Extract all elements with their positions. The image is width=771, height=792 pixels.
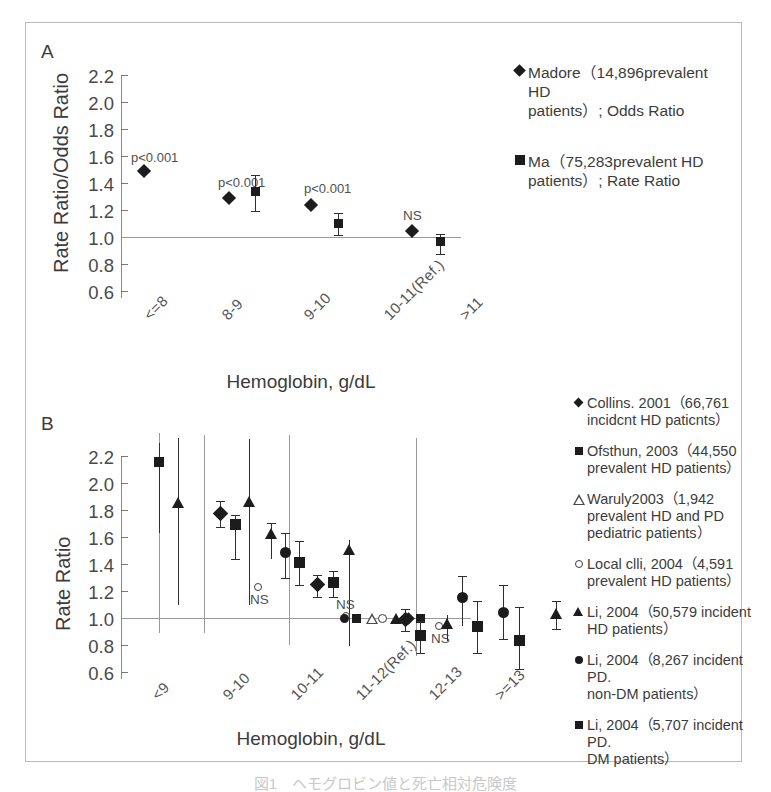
panel-b-legend-label: Li, 2004（5,707 incident PD. DM patients） [587,717,761,768]
panel-a-ytick-2-0: 2.0 [62,93,114,115]
panel-b-errorbar-cap [329,571,338,572]
panel-b-ytick-1-8: 1.8 [62,501,114,523]
panel-b-xtick-11-12-ref: 11-12(Ref.) [352,636,419,703]
panel-b-legend-item-li-hd: Li, 2004（50,579 incident HD patients） [571,604,761,638]
panel-b-errorbar-cap [473,601,482,602]
legend-marker-triangle-icon [571,604,587,620]
panel-b-marker-triangle [343,544,355,555]
panel-b-ytick-2-0: 2.0 [62,474,114,496]
panel-a-xtick-8-9: 8-9 [218,295,246,323]
panel-b-errorbar-cap [216,501,225,502]
panel-a-xtick-gt11: >11 [456,293,486,323]
panel-b-legend-label: Li, 2004（50,579 incident HD patients） [587,604,751,638]
panel-a-legend-item-madore: Madore（14,896prevalent HD patients）; Odd… [512,63,732,120]
panel-b-tick-mark [121,510,128,511]
panel-a-ytick-1-4: 1.4 [62,174,114,196]
panel-b-xtick-9-10: 9-10 [219,669,253,703]
panel-b-errorbar-cap [458,576,467,577]
panel-a-tick-mark [121,264,128,265]
panel-b-legend-item-li-pd-nondm: Li, 2004（8,267 incident PD. non-DM patie… [571,652,761,703]
panel-b-marker-diamond [310,577,326,593]
panel-b-marker-square [294,557,305,568]
panel-a-marker-square [251,187,260,196]
panel-a-marker-diamond [222,191,236,205]
panel-b-legend: Collins. 2001（66,761 incidcnt HD paticnt… [571,395,761,768]
panel-a-letter: A [41,41,54,63]
panel-b-marker-circle [457,592,468,603]
panel-b-errorbar-cap [231,559,240,560]
panel-b-xtick-12-13: 12-13 [425,663,465,703]
panel-b-errorbar-cap [416,621,425,622]
panel-b-errorbar [178,438,179,605]
panel-b-errorbar-cap [216,527,225,528]
panel-b-errorbar [349,540,350,646]
panel-b-tick-mark [121,591,128,592]
panel-b-errorbar-cap [281,533,290,534]
panel-b-errorbar-cap [267,523,276,524]
panel-a-xtick-9-10: 9-10 [300,289,334,323]
panel-b-ref-marker-triangle-open [366,613,378,624]
panel-b-marker-triangle [265,528,277,539]
panel-a-marker-square [334,219,343,228]
panel-b-annotation-ns: NS [250,592,269,607]
panel-b-group-separator [289,435,290,645]
panel-a-legend-label: Ma（75,283prevalent HD patients）; Rate Ra… [528,152,703,190]
panel-b-tick-mark [121,564,128,565]
panel-b-marker-square [154,457,164,467]
panel-a-tick-mark [121,102,128,103]
panel-b-marker-square [514,635,525,646]
panel-a-errorbar-cap [251,211,260,212]
panel-b-annotation-ns: NS [336,597,355,612]
panel-a-reference-line [121,237,461,238]
legend-marker-diamond-icon [512,63,528,79]
legend-marker-circle-icon [571,652,587,668]
legend-marker-square-icon [571,443,587,459]
panel-a-tick-mark [121,129,128,130]
figure-caption: 図1 ヘモグロビン値と死亡相対危険度 [0,772,771,792]
panel-a-marker-diamond [405,224,419,238]
panel-b-errorbar-cap [295,585,304,586]
panel-a-errorbar-cap [251,175,260,176]
panel-a-tick-mark [121,210,128,211]
panel-a-errorbar-cap [334,213,343,214]
panel-a-ytick-1-8: 1.8 [62,120,114,142]
panel-b-marker-circle [280,547,291,558]
panel-b-ytick-0-6: 0.6 [62,663,114,685]
panel-b-marker-triangle [172,497,184,508]
panel-b-tick-mark [121,645,128,646]
panel-a-ytick-0-6: 0.6 [62,282,114,304]
panel-a-xtick-10-11-ref: 10-11(Ref.) [380,256,447,323]
panel-b-xtick-10-11: 10-11 [287,664,326,703]
panel-b-marker-square [230,519,241,530]
panel-b-legend-item-ofsthun: Ofsthun, 2003（44,550 prevalent HD patien… [571,443,761,477]
panel-b-errorbar-cap [313,597,322,598]
figure-frame: A Rate Ratio/Odds Ratio 2.2 2.0 1.8 1.6 … [25,22,742,762]
panel-b-ref-marker-circle-open [378,614,387,623]
panel-a-tick-mark [121,183,128,184]
panel-b-errorbar-cap [499,639,508,640]
panel-a-ytick-1-0: 1.0 [62,228,114,250]
panel-b-tick-mark [121,537,128,538]
panel-a-ytick-1-2: 1.2 [62,201,114,223]
figure-page: A Rate Ratio/Odds Ratio 2.2 2.0 1.8 1.6 … [0,0,771,792]
panel-b-legend-item-collins: Collins. 2001（66,761 incidcnt HD paticnt… [571,395,761,429]
panel-b-errorbar-cap [416,653,425,654]
panel-a-x-axis-title: Hemoglobin, g/dL [176,371,426,393]
panel-b-ytick-1-4: 1.4 [62,555,114,577]
panel-a-ytick-0-8: 0.8 [62,255,114,277]
panel-b-marker-triangle [441,618,453,629]
panel-b-errorbar-cap [231,515,240,516]
panel-b-errorbar-cap [401,609,410,610]
legend-marker-circle-open-icon [571,556,587,572]
panel-b-legend-label: Local clli, 2004（4,591 prevalent HD pati… [587,556,740,590]
panel-a-marker-square [436,237,445,246]
panel-b-errorbar-cap [281,578,290,579]
panel-b-ref-marker-square [352,614,361,623]
panel-a-annotation-pvalue: p<0.001 [304,181,351,196]
legend-marker-square-icon [512,152,528,168]
panel-b-errorbar [249,439,250,605]
legend-marker-diamond-icon [571,395,587,411]
panel-b-errorbar-cap [552,601,561,602]
panel-b-marker-triangle [550,608,562,619]
panel-a-tick-mark [121,156,128,157]
